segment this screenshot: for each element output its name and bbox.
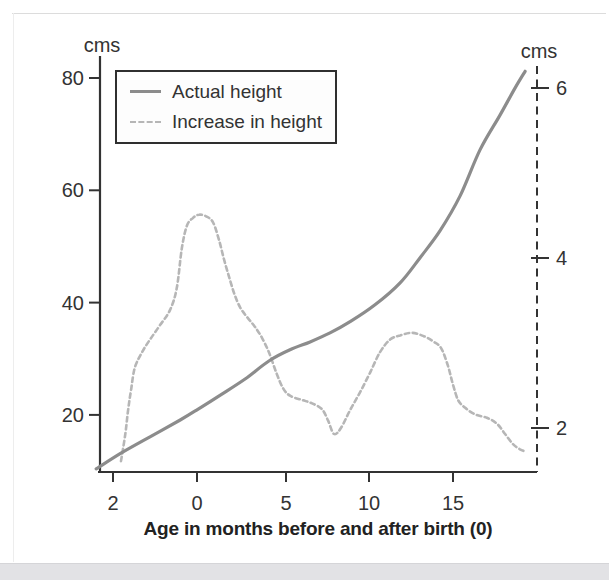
right-axis-tick-label: 2 <box>556 417 567 439</box>
x-axis-tick-label: 0 <box>191 492 202 514</box>
right-axis-tick-label: 4 <box>556 247 567 269</box>
left-axis-tick-label: 60 <box>62 179 84 201</box>
right-axis-unit-label: cms <box>517 40 561 63</box>
left-axis-tick-label: 40 <box>62 292 84 314</box>
left-axis-unit-label: cms <box>80 34 124 57</box>
legend-item-actual-height: Actual height <box>130 81 335 103</box>
x-axis-tick-label: 2 <box>107 492 118 514</box>
solid-line-swatch <box>130 90 161 93</box>
left-axis-tick-label: 80 <box>62 67 84 89</box>
x-axis-tick-label: 15 <box>442 492 464 514</box>
legend-label: Actual height <box>172 81 282 103</box>
legend-label: Increase in height <box>172 111 322 133</box>
x-axis-tick-label: 10 <box>358 492 380 514</box>
increase-in-height-curve <box>121 215 526 462</box>
right-axis-tick-label: 6 <box>556 77 567 99</box>
legend-box: Actual height Increase in height <box>115 70 337 144</box>
x-axis-title: Age in months before and after birth (0) <box>98 518 538 540</box>
figure-canvas: 204060802462051015 cms cms Actual height… <box>0 0 609 580</box>
x-axis-tick-label: 5 <box>280 492 291 514</box>
legend-item-increase-in-height: Increase in height <box>130 111 335 133</box>
left-axis-tick-label: 20 <box>62 404 84 426</box>
dashed-line-swatch <box>130 121 161 123</box>
page-bottom-strip <box>0 563 609 580</box>
